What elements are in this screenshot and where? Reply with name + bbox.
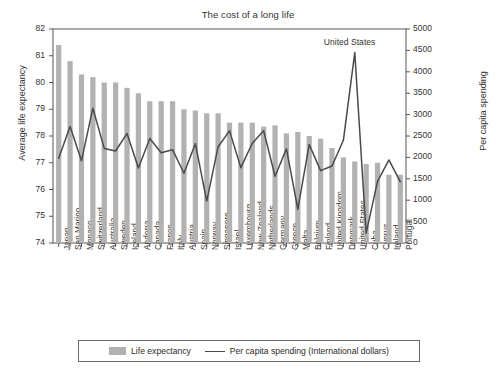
bar-austria <box>181 109 186 243</box>
bar-germany <box>272 125 277 243</box>
legend-label-per-capita-spending: Per capita spending (International dolla… <box>230 346 389 356</box>
bar-cyprus <box>375 163 380 243</box>
bar-netherlands <box>261 127 266 243</box>
bar-italy <box>170 101 175 243</box>
bar-portugal <box>398 175 403 243</box>
bar-denmark <box>341 157 346 243</box>
bar-swatch-icon <box>109 347 126 355</box>
bar-sweden <box>113 83 118 244</box>
bar-iceland <box>124 88 129 243</box>
bar-france <box>159 101 164 243</box>
bar-luxembourg <box>238 123 243 243</box>
legend-item-per-capita-spending: Per capita spending (International dolla… <box>205 346 389 356</box>
bar-finland <box>318 139 323 243</box>
bar-san-marino <box>67 61 72 243</box>
legend-item-life-expectancy: Life expectancy <box>109 346 191 356</box>
chart-container: The cost of a long life Average life exp… <box>0 0 496 373</box>
plot-area <box>0 0 496 373</box>
bar-canada <box>147 101 152 243</box>
bar-ireland <box>386 175 391 243</box>
bar-switzerland <box>90 77 95 243</box>
bar-australia <box>102 83 107 244</box>
bar-malta <box>295 132 300 243</box>
bar-spain <box>193 111 198 243</box>
bar-united-states <box>352 161 357 243</box>
bar-israel <box>227 123 232 243</box>
bar-norway <box>204 113 209 243</box>
legend-label-life-expectancy: Life expectancy <box>131 346 191 356</box>
bar-japan <box>56 45 61 243</box>
chart-legend: Life expectancy Per capita spending (Int… <box>78 340 420 362</box>
bar-singapore <box>215 113 220 243</box>
line-swatch-icon <box>205 351 225 352</box>
